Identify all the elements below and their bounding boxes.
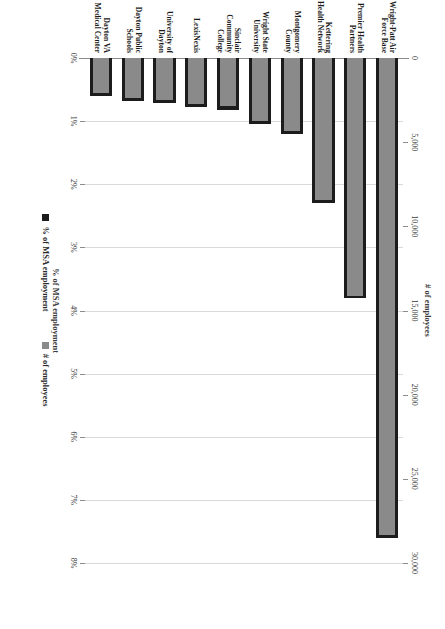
category-label: Montgomery County [283,0,300,53]
category-label: Wright-Patt Air Force Base [379,0,396,53]
category-label: Dayton VA Medical Center [92,0,109,53]
primary-axis-tick-label: 8% [69,558,78,569]
gridline [85,500,403,501]
secondary-axis-tick-label: 25,000 [410,468,419,490]
primary-axis-tick-label: 3% [69,242,78,253]
primary-axis-tick [80,500,85,501]
secondary-axis: # of employees 05,00010,00015,00020,0002… [403,58,435,563]
primary-axis-tick-label: 2% [69,179,78,190]
primary-axis-tick-label: 6% [69,431,78,442]
secondary-axis-tick [403,395,408,396]
category-label: Sinclair Community College [215,0,241,53]
legend-item: % of MSA employment [41,214,51,311]
secondary-axis-tick-label: 15,000 [410,300,419,322]
primary-axis-tick [80,437,85,438]
legend-item: # of employees [41,342,51,407]
primary-axis-tick-label: 4% [69,305,78,316]
category-label: Kettering Health Network [315,0,332,53]
legend-label: # of employees [41,354,51,407]
legend-swatch-icon [43,214,50,221]
bar-number-of-employees [315,58,331,200]
primary-axis-tick [80,374,85,375]
primary-axis-tick-label: 0% [69,53,78,64]
bar-number-of-employees [125,58,141,98]
secondary-axis-tick-label: 30,000 [410,552,419,574]
bar-number-of-employees [93,58,109,93]
primary-axis-tick [80,58,85,59]
category-label: LexisNexis [192,0,201,53]
secondary-axis-tick [403,311,408,312]
gridline [85,374,403,375]
secondary-axis-tick-label: 10,000 [410,215,419,237]
legend-label: % of MSA employment [41,226,51,311]
primary-axis-tick-label: 5% [69,368,78,379]
bar-number-of-employees [252,58,268,121]
secondary-axis-tick-label: 20,000 [410,384,419,406]
bar-number-of-employees [379,58,395,535]
category-label: Premier Health Partners [347,0,364,53]
secondary-axis-tick [403,142,408,143]
secondary-axis-tick [403,226,408,227]
plot-area [85,58,403,563]
primary-axis-tick [80,311,85,312]
primary-axis-tick [80,563,85,564]
bar-number-of-employees [347,58,363,296]
category-label: Dayton Public Schools [124,0,141,53]
secondary-axis-tick [403,479,408,480]
bar-number-of-employees [188,58,204,104]
bar-number-of-employees [220,58,236,106]
primary-axis-tick [80,247,85,248]
category-label: University of Dayton [156,0,173,53]
gridline [85,563,403,564]
primary-axis-tick-label: 7% [69,495,78,506]
primary-axis-tick [80,184,85,185]
legend-swatch-icon [43,342,50,349]
chart-canvas: # of employees 05,00010,00015,00020,0002… [0,0,445,629]
gridline [85,437,403,438]
secondary-axis-tick-label: 0 [410,56,419,60]
bar-number-of-employees [284,58,300,131]
secondary-axis-title: # of employees [423,58,433,563]
primary-axis-tick-label: 1% [69,116,78,127]
gridline [85,311,403,312]
bar-number-of-employees [156,58,172,100]
chart-figure: # of employees 05,00010,00015,00020,0002… [0,0,445,629]
secondary-axis-tick-label: 5,000 [410,133,419,151]
secondary-axis-tick [403,563,408,564]
category-axis: Wright-Patt Air Force BasePremier Health… [85,0,403,56]
chart-legend: % of MSA employment# of employees [35,58,57,563]
primary-axis-tick [80,121,85,122]
category-label: Wright State University [251,0,268,53]
